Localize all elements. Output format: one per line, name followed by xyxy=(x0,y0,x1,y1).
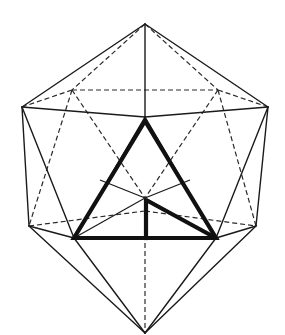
hidden-edge xyxy=(72,24,145,90)
hidden-edge xyxy=(22,90,72,107)
diagram-canvas xyxy=(0,0,285,335)
visible-edge xyxy=(22,107,29,226)
visible-edge xyxy=(256,107,268,226)
visible-edge xyxy=(216,107,268,238)
visible-edge xyxy=(22,107,74,238)
visible-edge xyxy=(74,238,145,333)
visible-edge xyxy=(22,24,145,107)
visible-edge xyxy=(22,107,145,117)
visible-edge xyxy=(29,226,145,333)
visible-edge xyxy=(145,238,216,333)
visible-edge xyxy=(145,107,268,117)
icosahedron-diagram xyxy=(0,0,285,335)
visible-edge xyxy=(145,226,256,333)
hidden-edge xyxy=(145,24,218,90)
hidden-edge xyxy=(218,90,268,107)
visible-edge xyxy=(145,24,268,107)
